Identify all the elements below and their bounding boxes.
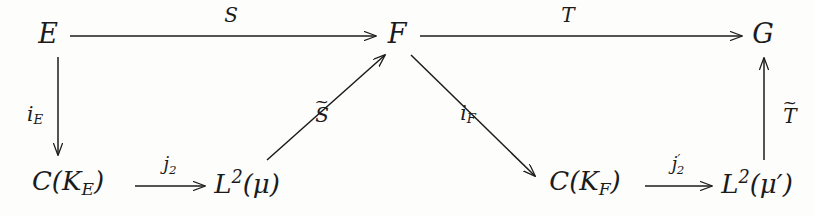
arrow-label-T: T [561,5,574,25]
arrow-label-T-tilde-wrap: ~T [783,106,796,126]
node-L2-mu-prime-base: L [721,169,738,199]
arrow-label-T-tilde: ~T [783,106,796,126]
node-L2-mu-exponent: 2 [231,167,242,187]
node-G: G [752,20,774,47]
node-E: E [38,20,58,47]
arrow-label-i-E-subscript: E [33,112,43,127]
node-L2-mu-prime: L2(μ′) [721,169,793,196]
node-C-K-F-open: C(K [549,166,598,196]
arrow-label-S-tilde-wrap: ~S [315,105,329,125]
node-F: F [388,20,407,47]
commutative-diagram: E F G C(KE) L2(μ) C(KF) L2(μ′) S T iE j2… [0,0,814,216]
arrow-label-S-text: S [224,3,238,27]
node-C-K-E-close: ) [94,166,104,196]
node-C-K-E-open: C(K [32,166,81,196]
node-L2-mu-prime-exponent: 2 [738,167,749,187]
node-C-K-F-close: ) [611,166,621,196]
diagram-arrows-layer [0,0,814,216]
node-C-K-E: C(KE) [32,168,104,198]
node-L2-mu-base: L [214,169,231,199]
node-E-label: E [38,18,58,49]
arrow-label-T-text: T [561,3,574,27]
arrow-label-i-F: iF [460,103,476,126]
node-L2-mu-prime-argument: (μ′) [750,169,793,199]
arrow-label-S-tilde: ~S [315,105,329,125]
arrow-label-j2-prime: j′2 [672,154,684,177]
arrow-label-S: S [224,5,238,25]
arrow-label-j2-prime-subscript: 2 [677,162,685,176]
node-L2-mu: L2(μ) [214,169,280,196]
arrow-label-j2: j2 [163,155,176,176]
node-L2-mu-argument: (μ) [243,169,280,199]
arrow-label-i-E: iE [27,104,43,127]
node-C-K-F: C(KF) [549,168,621,198]
node-G-label: G [752,18,774,49]
tilde-accent-icon: ~ [783,94,797,111]
node-F-label: F [388,18,407,49]
tilde-accent-icon: ~ [315,93,329,110]
node-C-K-F-subscript: F [599,179,611,199]
arrow-label-j2-subscript: 2 [169,163,177,177]
node-C-K-E-subscript: E [81,179,94,199]
arrow-label-i-F-subscript: F [467,111,476,126]
